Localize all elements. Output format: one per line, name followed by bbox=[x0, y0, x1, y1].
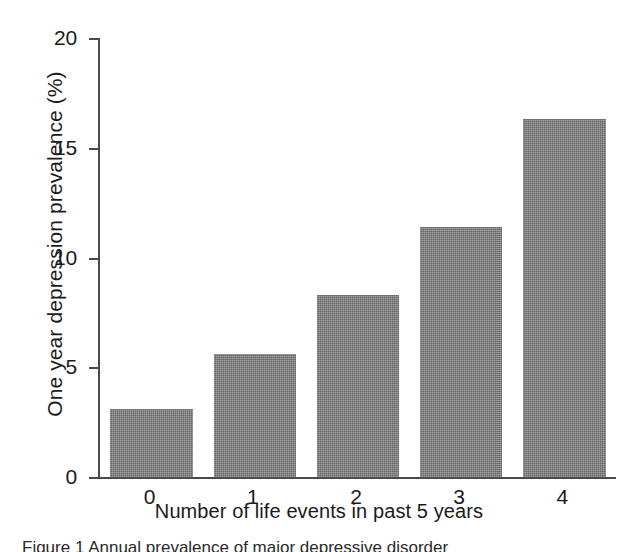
x-axis-spine bbox=[98, 477, 616, 479]
y-tick-mark bbox=[89, 367, 98, 369]
y-axis-title: One year depression prevalence (%) bbox=[43, 29, 67, 459]
figure-caption: Figure 1 Annual prevalence of major depr… bbox=[22, 538, 622, 552]
y-tick-label: 5 bbox=[17, 356, 77, 377]
y-tick-label: 15 bbox=[17, 137, 77, 158]
x-axis-title: Number of life events in past 5 years bbox=[0, 500, 638, 523]
y-tick-mark bbox=[89, 258, 98, 260]
bar bbox=[214, 354, 297, 477]
plot-area: 05101520 01234 bbox=[98, 38, 616, 479]
bar bbox=[110, 409, 193, 477]
bar bbox=[420, 227, 503, 477]
bar bbox=[317, 295, 400, 477]
y-tick-mark bbox=[89, 38, 98, 40]
y-tick-label: 0 bbox=[17, 466, 77, 487]
y-tick-mark bbox=[89, 148, 98, 150]
bar bbox=[523, 119, 606, 477]
y-tick-label: 10 bbox=[17, 247, 77, 268]
bar-series bbox=[100, 38, 616, 477]
y-tick-label: 20 bbox=[17, 27, 77, 48]
bar-chart-figure: One year depression prevalence (%) 05101… bbox=[0, 0, 638, 552]
y-tick-mark bbox=[89, 477, 98, 479]
